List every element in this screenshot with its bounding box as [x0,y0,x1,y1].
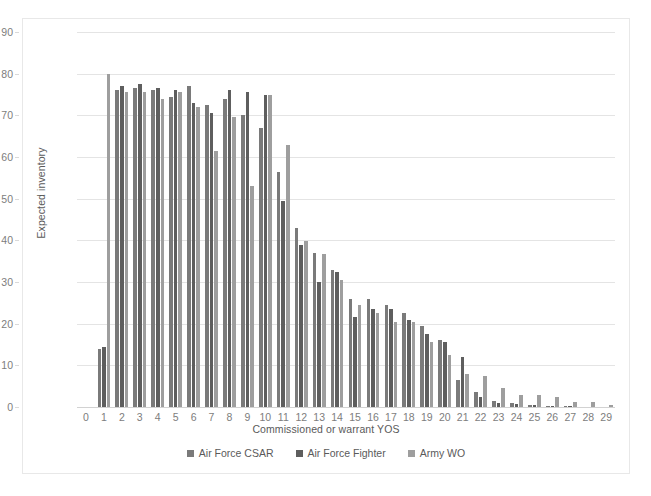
x-axis-tick-label: 1 [95,410,113,424]
y-axis-tick-label: 10 [1,360,13,371]
bar-group [77,32,95,407]
bar [519,395,523,408]
bar [335,272,339,407]
bar-group [131,32,149,407]
bar [192,103,196,407]
bar [443,342,447,407]
legend-label: Air Force Fighter [308,447,386,459]
y-axis-tick-mark [15,407,19,408]
bar [331,270,335,408]
x-axis-tick-label: 3 [131,410,149,424]
bar-group [328,32,346,407]
x-axis-tick-label: 13 [310,410,328,424]
bar [232,117,236,407]
legend-item[interactable]: Air Force Fighter [296,447,386,459]
bar-group [400,32,418,407]
x-axis-tick-label: 22 [472,410,490,424]
y-axis-tick-label: 0 [7,402,13,413]
bar [537,395,541,407]
x-axis-title: Commissioned or warrant YOS [23,423,629,435]
bar [465,374,469,407]
bar-group [508,32,526,407]
bar [259,128,263,407]
x-axis-tick-label: 2 [113,410,131,424]
x-axis-tick-label: 9 [238,410,256,424]
bar-group [364,32,382,407]
y-axis-tick-mark [15,324,19,325]
bar-group [256,32,274,407]
x-axis-tick-label: 17 [382,410,400,424]
bar [295,228,299,407]
legend-item[interactable]: Army WO [408,447,466,459]
bar [456,380,460,407]
plot-area [77,32,615,407]
bar-group [597,32,615,407]
bar-group [454,32,472,407]
x-axis-tick-label: 0 [77,410,95,424]
bar [420,326,424,407]
y-axis-tick-mark [15,157,19,158]
bar-group [579,32,597,407]
y-axis-tick-label: 50 [1,193,13,204]
legend-label: Air Force CSAR [199,447,274,459]
bar [479,397,483,407]
y-axis-tick-mark [15,199,19,200]
x-axis-tick-label: 29 [597,410,615,424]
bar [156,88,160,407]
bar-group [221,32,239,407]
x-axis-tick-label: 14 [328,410,346,424]
bar [322,254,326,407]
legend-swatch-icon [296,450,303,457]
x-axis-tick-label: 25 [525,410,543,424]
x-axis-tick-label: 18 [400,410,418,424]
bar [461,357,465,407]
y-axis-tick-mark [15,74,19,75]
bar [402,313,406,407]
y-axis-tick-label: 30 [1,277,13,288]
x-axis-tick-label: 8 [221,410,239,424]
bar [174,90,178,407]
bars-layer [77,32,615,407]
bar [125,92,129,407]
bar [304,241,308,407]
bar [107,74,111,407]
y-axis-tick-mark [15,282,19,283]
bar-group [418,32,436,407]
legend-item[interactable]: Air Force CSAR [187,447,274,459]
x-axis-tick-label: 16 [364,410,382,424]
x-axis-tick-label: 23 [490,410,508,424]
bar-group [525,32,543,407]
bar [169,97,173,407]
legend-swatch-icon [408,450,415,457]
bar [250,186,254,407]
bar [286,145,290,407]
bar [353,317,357,407]
bar [555,397,559,407]
bar [317,282,321,407]
bar-group [149,32,167,407]
bar [138,84,142,407]
bar [178,92,182,407]
bar-group [310,32,328,407]
bar [151,90,155,407]
legend-label: Army WO [420,447,466,459]
bar-group [382,32,400,407]
bar [223,99,227,407]
x-axis-tick-label: 27 [561,410,579,424]
bar-group [95,32,113,407]
legend-swatch-icon [187,450,194,457]
bar-group [238,32,256,407]
bar-group [113,32,131,407]
bar [120,86,124,407]
bar [483,376,487,407]
y-axis-tick-label: 90 [1,27,13,38]
bar [474,392,478,407]
x-axis-tick-label: 24 [508,410,526,424]
x-axis-tick-label: 26 [543,410,561,424]
bar [349,299,353,407]
y-axis-tick-mark [15,365,19,366]
chart-legend: Air Force CSARAir Force FighterArmy WO [23,447,629,459]
bar [340,280,344,407]
bar [102,347,106,407]
x-axis-tick-label: 20 [436,410,454,424]
